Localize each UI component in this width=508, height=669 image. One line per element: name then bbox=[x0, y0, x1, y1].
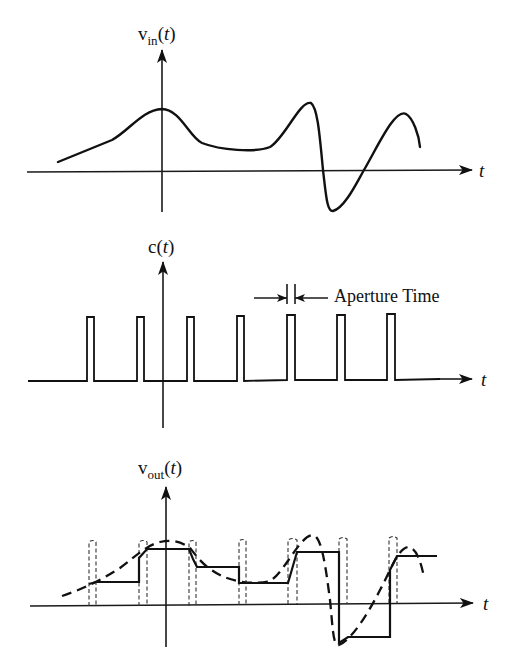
aperture-time-marker bbox=[254, 284, 328, 304]
clock-x-axis-label: t bbox=[481, 369, 487, 390]
aperture-time-label: Aperture Time bbox=[334, 286, 440, 306]
input-waveform bbox=[58, 103, 420, 211]
output-held-staircase bbox=[89, 549, 437, 643]
output-x-axis-label: t bbox=[483, 593, 489, 614]
input-signal-panel: vin(t) t bbox=[27, 23, 485, 212]
sample-and-hold-diagram: vin(t) t c(t) t Aperture Time vout(t) t bbox=[0, 0, 508, 669]
clock-signal-panel: c(t) t Aperture Time bbox=[28, 236, 487, 428]
input-x-axis bbox=[27, 170, 472, 172]
clock-y-axis-label: c(t) bbox=[148, 236, 174, 258]
output-y-axis-label: vout(t) bbox=[138, 457, 182, 482]
output-input-reference-curve bbox=[62, 535, 424, 645]
input-y-axis-label: vin(t) bbox=[138, 23, 176, 48]
input-x-axis-label: t bbox=[479, 160, 485, 181]
output-aperture-pulses bbox=[89, 537, 397, 607]
clock-pulse-train bbox=[28, 314, 440, 381]
output-signal-panel: vout(t) t bbox=[30, 457, 489, 647]
